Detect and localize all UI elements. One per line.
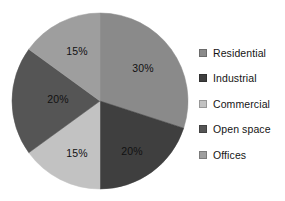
pie-chart-screenshot: 30%20%15%20%15% ResidentialIndustrialCom… — [0, 0, 285, 201]
legend-item-industrial[interactable]: Industrial — [199, 72, 257, 84]
pie-slice-value-label: 20% — [47, 93, 69, 105]
legend-swatch-icon — [199, 125, 207, 133]
pie-chart-graphic: 30%20%15%20%15% — [0, 0, 200, 201]
pie-chart-figure: 30%20%15%20%15% ResidentialIndustrialCom… — [0, 0, 285, 201]
legend-item-label: Industrial — [213, 72, 257, 84]
pie-slices-group — [12, 13, 188, 189]
legend-swatch-icon — [199, 49, 207, 57]
pie-slice-value-label: 20% — [121, 145, 143, 157]
legend-item-label: Offices — [213, 149, 246, 161]
legend-swatch-icon — [199, 151, 207, 159]
chart-legend: ResidentialIndustrialCommercialOpen spac… — [199, 41, 285, 165]
pie-slice-value-label: 15% — [66, 147, 88, 159]
legend-swatch-icon — [199, 100, 207, 108]
legend-item-offices[interactable]: Offices — [199, 149, 246, 161]
legend-item-label: Open space — [213, 123, 271, 135]
legend-item-label: Residential — [213, 47, 266, 59]
legend-item-label: Commercial — [213, 98, 270, 110]
legend-item-commercial[interactable]: Commercial — [199, 98, 270, 110]
legend-item-residential[interactable]: Residential — [199, 47, 266, 59]
pie-slice-value-label: 30% — [132, 62, 154, 74]
legend-swatch-icon — [199, 74, 207, 82]
pie-slice-value-label: 15% — [66, 45, 88, 57]
legend-item-open-space[interactable]: Open space — [199, 123, 271, 135]
